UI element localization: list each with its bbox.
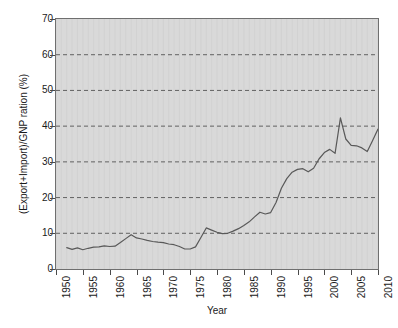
y-tick-mark-60: [50, 55, 55, 56]
y-tick-mark-50: [50, 90, 55, 91]
x-tick-mark-2000: [324, 270, 325, 275]
minor-vertical-gridlines: [56, 19, 378, 269]
y-tick-label-70: 70: [13, 14, 53, 24]
y-tick-mark-70: [50, 19, 55, 20]
x-tick-mark-1985: [244, 270, 245, 275]
x-tick-mark-2005: [351, 270, 352, 275]
chart-canvas: [56, 19, 378, 269]
x-axis-title: Year: [55, 305, 379, 316]
x-tick-mark-1995: [298, 270, 299, 275]
y-tick-mark-30: [50, 162, 55, 163]
x-tick-mark-1990: [271, 270, 272, 275]
y-tick-label-50: 50: [13, 85, 53, 95]
y-tick-mark-40: [50, 126, 55, 127]
chart-figure: (Export+Import)/GNP ration (%) 010203040…: [0, 0, 398, 328]
y-tick-label-0: 0: [13, 264, 53, 274]
x-tick-mark-1955: [83, 270, 84, 275]
x-tick-mark-1950: [56, 270, 57, 275]
x-tick-mark-1970: [163, 270, 164, 275]
x-tick-mark-1975: [190, 270, 191, 275]
y-tick-label-20: 20: [13, 193, 53, 203]
y-tick-mark-10: [50, 233, 55, 234]
y-tick-label-60: 60: [13, 50, 53, 60]
x-tick-label-2010: 2010: [383, 276, 394, 320]
plot-area: [55, 18, 379, 270]
x-tick-mark-1960: [110, 270, 111, 275]
x-tick-mark-1980: [217, 270, 218, 275]
y-tick-mark-0: [50, 269, 55, 270]
x-tick-mark-1965: [137, 270, 138, 275]
y-tick-label-10: 10: [13, 228, 53, 238]
y-tick-label-40: 40: [13, 121, 53, 131]
y-tick-label-30: 30: [13, 157, 53, 167]
x-tick-mark-2010: [378, 270, 379, 275]
y-tick-mark-20: [50, 198, 55, 199]
